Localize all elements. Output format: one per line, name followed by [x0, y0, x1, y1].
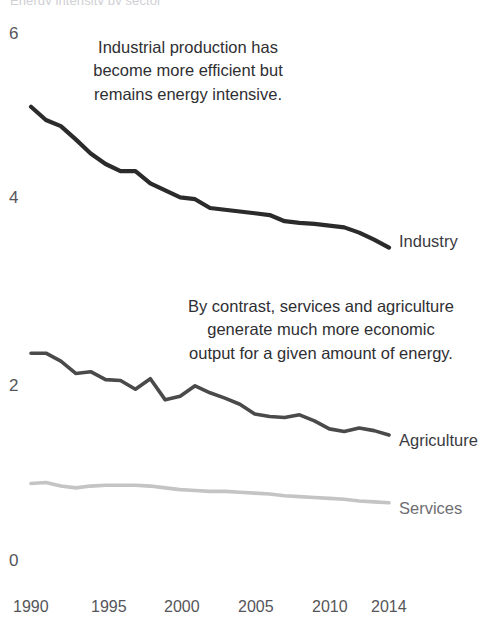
y-axis-tick-0: 0: [9, 552, 18, 569]
y-axis-tick-2: 2: [9, 377, 18, 394]
x-axis-tick-2005: 2005: [238, 599, 274, 615]
x-axis-tick-1995: 1995: [91, 599, 127, 615]
series-label-agriculture: Agriculture: [399, 432, 478, 449]
services-agriculture-annotation: By contrast, services and agriculture ge…: [156, 295, 486, 365]
line-industry: [31, 107, 389, 248]
series-label-industry: Industry: [399, 233, 458, 250]
industry-annotation: Industrial production has become more ef…: [66, 36, 310, 106]
line-agriculture: [31, 353, 389, 435]
energy-intensity-line-chart: Energy intensity by sector 6 4 2 0 1990 …: [0, 0, 494, 630]
x-axis-tick-2010: 2010: [312, 599, 348, 615]
x-axis-tick-1990: 1990: [13, 599, 49, 615]
y-axis-tick-6: 6: [9, 25, 18, 42]
x-axis-tick-2000: 2000: [164, 599, 200, 615]
y-axis-tick-4: 4: [9, 189, 18, 206]
series-label-services: Services: [399, 500, 462, 517]
x-axis-tick-2014: 2014: [371, 599, 407, 615]
line-services: [31, 483, 389, 503]
